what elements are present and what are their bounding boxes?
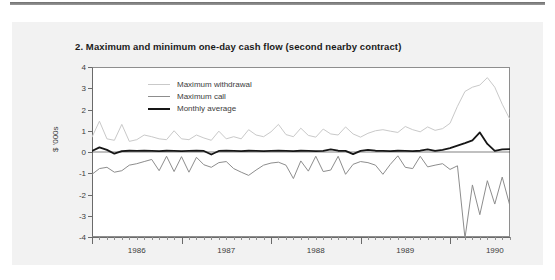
x-axis-tick-label: 1989 [396, 246, 414, 255]
x-axis-tick-minor [122, 237, 123, 240]
legend-swatch [148, 84, 170, 85]
chart-title: 2. Maximum and minimum one-day cash flow… [75, 41, 401, 52]
x-axis-tick-minor [204, 237, 205, 240]
x-axis-tick-minor [256, 237, 257, 240]
x-axis-tick-minor [323, 237, 324, 240]
x-axis-tick-minor [428, 237, 429, 240]
x-axis-tick-label: 1988 [307, 246, 325, 255]
x-axis-tick-minor [487, 237, 488, 240]
x-axis-tick-minor [480, 237, 481, 240]
legend-swatch [148, 96, 170, 97]
x-axis-tick-minor [249, 237, 250, 240]
x-axis-tick-minor [308, 237, 309, 240]
x-axis-tick-minor [114, 237, 115, 240]
x-axis-tick-minor [435, 237, 436, 240]
x-axis-tick-minor [398, 237, 399, 240]
x-axis-tick-minor [502, 237, 503, 240]
x-axis-tick-minor [144, 237, 145, 240]
legend-label: Maximum withdrawal [177, 79, 252, 90]
x-axis-tick-minor [196, 237, 197, 240]
legend-item: Maximum withdrawal [148, 79, 252, 90]
chart-legend: Maximum withdrawalMaximum callMonthly av… [148, 79, 252, 115]
x-axis-tick-major [361, 237, 362, 244]
legend-label: Maximum call [177, 91, 226, 102]
x-axis-tick-minor [211, 237, 212, 240]
x-axis-tick-minor [457, 237, 458, 240]
x-axis-tick-minor [472, 237, 473, 240]
x-axis-tick-minor [495, 237, 496, 240]
x-axis-tick-minor [286, 237, 287, 240]
x-axis-tick-minor [420, 237, 421, 240]
x-axis-tick-minor [413, 237, 414, 240]
x-axis-tick-major [92, 237, 93, 244]
y-axis-label: $ '000s [51, 126, 60, 152]
x-axis-tick-minor [316, 237, 317, 240]
x-axis-tick-minor [346, 237, 347, 240]
x-axis-tick-minor [338, 237, 339, 240]
y-axis-tick-label: -3 [79, 211, 86, 220]
y-axis-tick-label: 2 [82, 105, 86, 114]
y-axis-tick-label: 3 [82, 84, 86, 93]
x-axis-tick-minor [167, 237, 168, 240]
legend-item: Monthly average [148, 103, 252, 114]
x-axis: 19861987198819891990 [92, 237, 510, 238]
x-axis-tick-minor [331, 237, 332, 240]
x-axis-tick-major [271, 237, 272, 244]
x-axis-tick-minor [189, 237, 190, 240]
x-axis-tick-minor [301, 237, 302, 240]
legend-swatch [148, 108, 170, 110]
x-axis-tick-minor [174, 237, 175, 240]
x-axis-tick-minor [107, 237, 108, 240]
x-axis-tick-minor [129, 237, 130, 240]
x-axis-tick-major [182, 237, 183, 244]
x-axis-tick-major [450, 237, 451, 244]
x-axis-tick-minor [293, 237, 294, 240]
legend-label: Monthly average [177, 103, 236, 114]
x-axis-tick-minor [443, 237, 444, 240]
y-axis-tick-label: 4 [82, 63, 86, 72]
x-axis-tick-minor [368, 237, 369, 240]
x-axis-tick-minor [278, 237, 279, 240]
x-axis-tick-minor [137, 237, 138, 240]
x-axis-tick-minor [383, 237, 384, 240]
x-axis-tick-minor [510, 237, 511, 240]
x-axis-tick-minor [264, 237, 265, 240]
page-top-rule [10, 2, 545, 5]
y-axis-tick-label: -1 [79, 169, 86, 178]
x-axis-tick-minor [465, 237, 466, 240]
x-axis-tick-minor [219, 237, 220, 240]
x-axis-tick-label: 1990 [486, 246, 504, 255]
x-axis-tick-minor [390, 237, 391, 240]
figure-root: 2. Maximum and minimum one-day cash flow… [0, 0, 555, 280]
x-axis-tick-minor [159, 237, 160, 240]
x-axis-tick-minor [405, 237, 406, 240]
x-axis-tick-minor [99, 237, 100, 240]
x-axis-tick-minor [226, 237, 227, 240]
y-axis-tick-label: -4 [79, 233, 86, 242]
x-axis-tick-label: 1986 [128, 246, 146, 255]
x-axis-tick-minor [152, 237, 153, 240]
x-axis-tick-minor [241, 237, 242, 240]
x-axis-tick-label: 1987 [217, 246, 235, 255]
y-axis-tick-label: 0 [82, 148, 86, 157]
series-line [92, 156, 510, 237]
legend-item: Maximum call [148, 91, 252, 102]
x-axis-tick-minor [375, 237, 376, 240]
series-line [92, 132, 510, 154]
x-axis-tick-minor [353, 237, 354, 240]
y-axis-tick-label: 1 [82, 126, 86, 135]
y-axis-tick-label: -2 [79, 190, 86, 199]
x-axis-tick-minor [234, 237, 235, 240]
